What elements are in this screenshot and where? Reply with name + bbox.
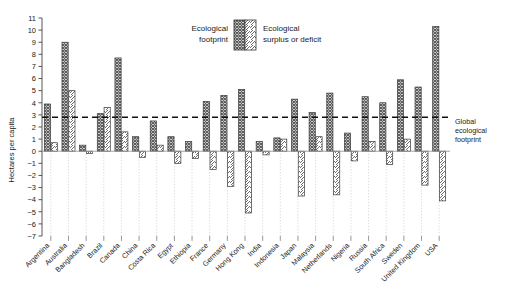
bar-ecological-footprint [309,112,315,151]
legend-item-footprint-label-line1: Ecological [192,24,229,33]
bar-ecological-surplus-deficit [104,108,110,152]
y-tick-label: −1 [27,159,36,168]
y-tick-label: −6 [27,220,36,229]
bar-ecological-footprint [380,103,386,151]
y-axis-ticks: −7−6−5−4−3−2−101234567891011 [27,14,42,241]
bar-ecological-footprint [203,102,209,152]
y-tick-label: 0 [32,147,36,156]
bar-ecological-surplus-deficit [69,91,75,152]
bar-ecological-footprint [415,87,421,151]
x-axis-category-label: Nigeria [329,241,351,263]
y-tick-label: −3 [27,183,36,192]
bar-ecological-footprint [97,114,103,152]
x-axis-category-labels: ArgentinaAustraliaBangladeshBrazilCanada… [23,241,440,284]
y-tick-label: 9 [32,38,36,47]
chart-legend: Ecological footprint Ecological surplus … [192,20,322,50]
bar-ecological-surplus-deficit [210,151,216,169]
y-tick-label: 1 [32,135,36,144]
legend-swatch-footprint [234,20,245,50]
y-tick-label: 2 [32,123,36,132]
bar-ecological-footprint [186,142,192,152]
bar-ecological-footprint [168,137,174,152]
y-tick-label: 10 [28,26,36,35]
annotation-line-3: footprint [455,135,481,144]
bar-ecological-footprint [327,93,333,151]
bar-ecological-surplus-deficit [192,151,198,158]
bar-ecological-surplus-deficit [422,151,428,185]
legend-item-surplus-label-line2: surplus or deficit [263,35,322,44]
bar-ecological-footprint [115,58,121,151]
bar-ecological-footprint [256,142,262,152]
bar-ecological-footprint [362,97,368,152]
bar-ecological-surplus-deficit [369,142,375,152]
bar-ecological-surplus-deficit [51,143,57,151]
bar-ecological-footprint [62,42,68,151]
ecological-footprint-chart: −7−6−5−4−3−2−101234567891011 ArgentinaAu… [0,0,505,286]
bar-ecological-footprint [133,137,139,152]
bar-ecological-surplus-deficit [263,151,269,155]
y-tick-label: 11 [28,14,36,23]
bar-ecological-surplus-deficit [316,137,322,152]
y-tick-label: 7 [32,62,36,71]
bar-ecological-surplus-deficit [228,151,234,186]
bar-ecological-footprint [397,80,403,151]
bar-ecological-surplus-deficit [245,151,251,213]
legend-item-surplus-label-line1: Ecological [263,24,300,33]
bar-ecological-footprint [239,89,245,151]
bar-ecological-surplus-deficit [351,151,357,161]
bar-ecological-surplus-deficit [175,151,181,163]
bar-ecological-footprint [291,99,297,151]
x-axis-category-label: USA [423,241,440,258]
y-tick-label: 8 [32,50,36,59]
bar-ecological-surplus-deficit [122,132,128,151]
bar-ecological-footprint [344,133,350,151]
y-tick-label: −5 [27,208,36,217]
bar-ecological-surplus-deficit [387,151,393,164]
bar-ecological-footprint [433,26,439,151]
y-tick-label: 5 [32,86,36,95]
bar-ecological-surplus-deficit [439,151,445,201]
bar-ecological-footprint [274,138,280,151]
bars-layer [44,26,445,213]
annotation-line-2: ecological [455,126,487,135]
global-footprint-annotation: Global ecological footprint [455,117,487,144]
bar-ecological-surplus-deficit [298,151,304,196]
y-tick-label: 3 [32,111,36,120]
legend-item-footprint-label-line2: footprint [199,35,229,44]
bar-ecological-footprint [221,96,227,152]
bar-ecological-surplus-deficit [334,151,340,195]
y-tick-label: −4 [27,195,36,204]
y-tick-label: −7 [27,232,36,241]
y-tick-label: 6 [32,74,36,83]
chart-canvas: −7−6−5−4−3−2−101234567891011 ArgentinaAu… [0,0,505,286]
y-tick-label: 4 [32,99,36,108]
bar-ecological-footprint [80,145,86,151]
bar-ecological-surplus-deficit [281,139,287,151]
y-tick-label: −2 [27,171,36,180]
y-axis-title: Hectares per capita [7,117,16,183]
legend-swatch-surplus [245,20,256,50]
bar-ecological-surplus-deficit [139,151,145,157]
bar-ecological-surplus-deficit [157,145,163,151]
bar-ecological-surplus-deficit [404,139,410,151]
bar-ecological-footprint [44,104,50,151]
bar-ecological-footprint [150,121,156,151]
annotation-line-1: Global [455,117,476,126]
